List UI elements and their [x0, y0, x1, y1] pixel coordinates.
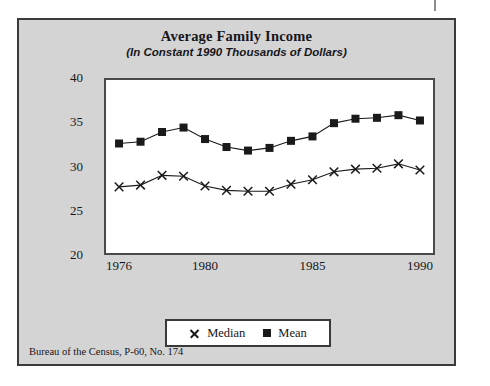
chart-legend: Median Mean [165, 319, 331, 347]
data-point-median [201, 182, 210, 191]
y-tick-label: 35 [43, 114, 83, 130]
data-point-mean [115, 139, 123, 147]
chart-title: Average Family Income [19, 28, 454, 44]
data-point-mean [416, 116, 424, 124]
data-point-mean [244, 147, 252, 155]
legend-label-mean: Mean [278, 326, 306, 341]
data-point-median [308, 175, 317, 184]
data-point-mean [308, 132, 316, 140]
title-block: Average Family Income (In Constant 1990 … [19, 28, 454, 60]
data-point-mean [266, 144, 274, 152]
data-point-median [416, 166, 425, 175]
chart-subtitle: (In Constant 1990 Thousands of Dollars) [19, 45, 454, 60]
figure-page: Average Family Income (In Constant 1990 … [0, 0, 490, 386]
source-note: Bureau of the Census, P-60, No. 174 [29, 346, 183, 357]
y-tick-label: 25 [43, 203, 83, 219]
x-tick-label: 1980 [175, 258, 235, 274]
y-tick-label: 40 [43, 70, 83, 86]
data-point-median [394, 160, 403, 169]
legend-entry-mean: Mean [263, 326, 306, 341]
x-marker-icon [189, 328, 200, 339]
data-point-mean [158, 128, 166, 136]
data-point-mean [373, 114, 381, 122]
plot-wrapper: 2025303540 1976198019851990 [86, 78, 436, 258]
plot-svg [86, 78, 436, 278]
data-point-mean [223, 143, 231, 151]
data-point-median [287, 180, 296, 189]
data-point-mean [287, 137, 295, 145]
data-point-mean [351, 115, 359, 123]
x-tick-label: 1990 [390, 258, 450, 274]
legend-label-median: Median [207, 326, 245, 341]
y-tick-label: 20 [43, 247, 83, 263]
page-edge-tick-mark [434, 0, 436, 11]
legend-entry-median: Median [189, 326, 245, 341]
data-point-mean [137, 138, 145, 146]
x-tick-label: 1976 [89, 258, 149, 274]
data-point-mean [330, 119, 338, 127]
data-point-mean [201, 135, 209, 143]
y-tick-label: 30 [43, 159, 83, 175]
data-point-mean [180, 124, 188, 132]
chart-figure-frame: Average Family Income (In Constant 1990 … [17, 18, 456, 366]
data-point-mean [394, 111, 402, 119]
square-marker-icon [263, 329, 271, 337]
x-tick-label: 1985 [283, 258, 343, 274]
